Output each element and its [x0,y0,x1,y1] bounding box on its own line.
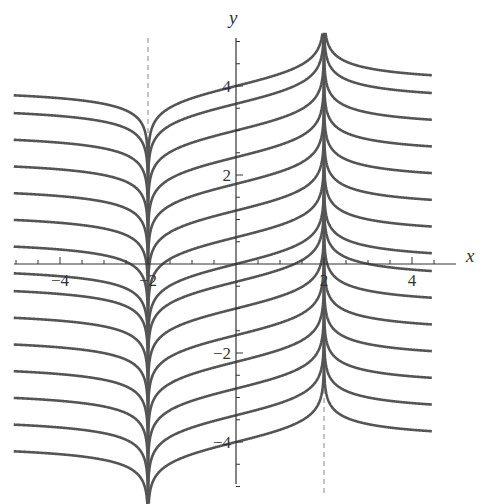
chart-container: −4−224−4−224 x y [0,0,491,504]
solution-curve [14,275,432,499]
x-tick-label: −2 [139,271,157,290]
x-tick-label: 2 [320,271,329,290]
y-tick-label: 4 [223,77,232,96]
direction-field-plot: −4−224−4−224 x y [0,0,491,504]
y-tick-label: 2 [223,166,232,185]
solution-curve [14,97,432,321]
solution-curve [14,33,432,242]
y-tick-label: −4 [213,433,232,452]
x-tick-label: −4 [51,271,70,290]
solution-curve [14,195,432,419]
y-tick-label: −2 [213,344,231,363]
x-tick-label: 4 [408,271,417,290]
y-axis-label: y [227,7,238,28]
solution-curve [14,124,432,348]
x-axis-label: x [465,245,475,266]
solution-curve [14,222,432,446]
